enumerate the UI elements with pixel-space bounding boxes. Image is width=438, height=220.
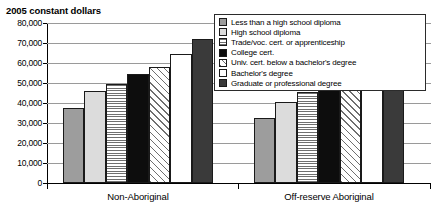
bar [297, 92, 318, 183]
legend-item: Bachelor's degree [219, 68, 422, 78]
bar [106, 84, 127, 183]
x-axis-tick-mark [47, 184, 48, 189]
x-axis-tick-mark [238, 184, 239, 189]
bar [63, 108, 84, 183]
bar-chart: 2005 constant dollars 010,00020,00030,00… [0, 0, 438, 220]
x-axis-category-label: Non-Aboriginal [48, 191, 228, 202]
legend-swatch-icon [219, 79, 227, 87]
bar-group [63, 23, 213, 183]
bar [127, 74, 148, 183]
legend-swatch-icon [219, 38, 227, 46]
legend-swatch-icon [219, 49, 227, 57]
bar [275, 102, 296, 183]
legend-item: Less than a high school diploma [219, 17, 422, 27]
legend-item-label: Less than a high school diploma [231, 18, 341, 27]
legend-swatch-icon [219, 69, 227, 77]
x-axis-tick-mark [430, 184, 431, 189]
legend-item-label: Trade/voc. cert. or apprenticeship [231, 38, 345, 47]
legend-swatch-icon [219, 18, 227, 26]
legend-item-label: High school diploma [231, 28, 300, 37]
bar [340, 78, 361, 183]
bar [149, 67, 170, 183]
legend-item-label: College cert. [231, 48, 274, 57]
x-axis-category-label: Off-reserve Aboriginal [239, 191, 419, 202]
legend-swatch-icon [219, 59, 227, 67]
legend-item: Univ. cert. below a bachelor's degree [219, 58, 422, 68]
y-axis-tick-marks [0, 23, 47, 183]
gridline [47, 183, 431, 184]
legend-item-label: Graduate or professional degree [231, 79, 342, 88]
chart-axis-title: 2005 constant dollars [6, 5, 101, 16]
bar [84, 91, 105, 183]
legend-item: High school diploma [219, 27, 422, 37]
bar [318, 84, 339, 183]
legend-item: Graduate or professional degree [219, 78, 422, 88]
legend-item: College cert. [219, 48, 422, 58]
bar [192, 39, 213, 183]
legend-item: Trade/voc. cert. or apprenticeship [219, 37, 422, 47]
bar [170, 54, 191, 183]
legend-swatch-icon [219, 28, 227, 36]
legend-item-label: Univ. cert. below a bachelor's degree [231, 58, 356, 67]
legend-item-label: Bachelor's degree [231, 69, 293, 78]
bar [254, 118, 275, 183]
chart-legend: Less than a high school diplomaHigh scho… [214, 14, 426, 91]
